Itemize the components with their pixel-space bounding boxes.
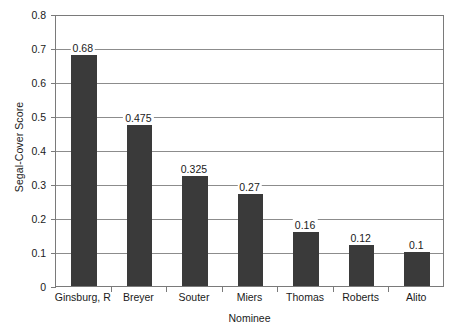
bar-value-label: 0.1: [407, 239, 426, 251]
x-tick-mark: [277, 287, 278, 292]
x-tick-label: Souter: [178, 291, 209, 303]
bar-value-label: 0.12: [348, 232, 372, 244]
bar-value-label: 0.16: [293, 219, 317, 231]
x-tick-label: Breyer: [123, 291, 154, 303]
bar-value-label: 0.27: [237, 181, 261, 193]
x-tick-label: Ginsburg, R: [55, 291, 111, 303]
bar-value-label: 0.325: [179, 163, 209, 175]
x-tick-mark: [166, 287, 167, 292]
y-tick-label: 0.5: [0, 111, 55, 123]
x-tick-label: Thomas: [286, 291, 324, 303]
x-axis-title: Nominee: [55, 312, 444, 324]
x-tick-mark: [388, 287, 389, 292]
x-tick-mark: [333, 287, 334, 292]
y-tick-label: 0.3: [0, 179, 55, 191]
y-tick-label: 0.8: [0, 9, 55, 21]
y-tick-label: 0.1: [0, 247, 55, 259]
x-tick-mark: [222, 287, 223, 292]
y-tick-label: 0: [0, 281, 55, 293]
x-tick-label: Miers: [237, 291, 263, 303]
x-tick-label: Roberts: [342, 291, 379, 303]
bar-chart: Segal-Cover Score 00.10.20.30.40.50.60.7…: [0, 0, 461, 331]
y-tick-label: 0.4: [0, 145, 55, 157]
x-tick-label: Alito: [406, 291, 426, 303]
x-axis-ticks: [55, 15, 444, 287]
y-tick-label: 0.2: [0, 213, 55, 225]
bar-value-label: 0.475: [123, 112, 153, 124]
y-tick-label: 0.7: [0, 43, 55, 55]
y-tick-label: 0.6: [0, 77, 55, 89]
bar-value-label: 0.68: [71, 42, 95, 54]
